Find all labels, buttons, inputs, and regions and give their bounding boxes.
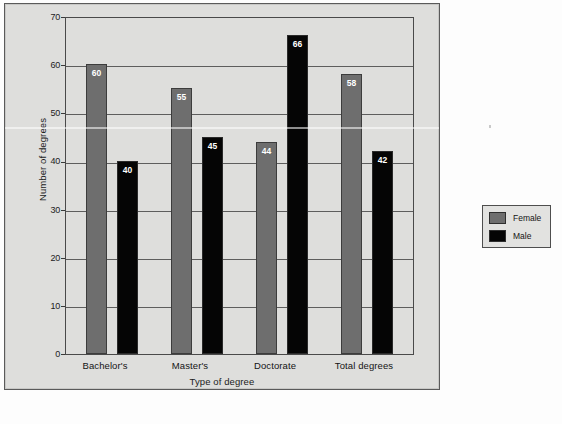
- bar-value-label: 66: [288, 40, 307, 49]
- legend-label-male: Male: [513, 231, 531, 241]
- bar-bachelors-male[interactable]: 40: [117, 161, 138, 354]
- scanned-page: Number of degrees 70 60 50 40 30 20 10 0: [0, 0, 562, 424]
- y-tick-label-30: 30: [34, 206, 60, 215]
- x-tick-label-total-degrees: Total degrees: [321, 360, 407, 371]
- x-tick-label-bachelors: Bachelor's: [67, 360, 143, 371]
- y-tick-label-20: 20: [34, 254, 60, 263]
- bar-doctorate-male[interactable]: 66: [287, 35, 308, 354]
- y-tick-label-60: 60: [34, 61, 60, 70]
- female-swatch-icon: [489, 212, 506, 224]
- bar-doctorate-female[interactable]: 44: [256, 142, 277, 354]
- y-tick-label-50: 50: [34, 109, 60, 118]
- x-axis-title: Type of degree: [5, 376, 439, 387]
- bar-masters-female[interactable]: 55: [171, 88, 192, 354]
- chart-legend: Female Male: [482, 205, 551, 248]
- bar-value-label: 60: [87, 69, 106, 78]
- y-tick-label-40: 40: [34, 157, 60, 166]
- bar-value-label: 40: [118, 166, 137, 175]
- bar-total-degrees-female[interactable]: 58: [341, 74, 362, 354]
- y-tick-label-70: 70: [34, 13, 60, 22]
- gridline-60: [66, 66, 413, 67]
- bar-value-label: 58: [342, 79, 361, 88]
- scan-artifact-speck: [489, 125, 491, 128]
- legend-item-male[interactable]: Male: [489, 230, 531, 242]
- bar-total-degrees-male[interactable]: 42: [372, 151, 393, 354]
- legend-label-female: Female: [513, 213, 541, 223]
- legend-item-female[interactable]: Female: [489, 212, 541, 224]
- chart-figure-panel: Number of degrees 70 60 50 40 30 20 10 0: [4, 3, 440, 390]
- bar-value-label: 45: [203, 142, 222, 151]
- y-tick-label-10: 10: [34, 302, 60, 311]
- y-tick-label-0: 0: [34, 350, 60, 359]
- male-swatch-icon: [489, 230, 506, 242]
- bar-value-label: 44: [257, 147, 276, 156]
- bar-bachelors-female[interactable]: 60: [86, 64, 107, 354]
- bar-masters-male[interactable]: 45: [202, 137, 223, 354]
- x-tick-label-masters: Master's: [152, 360, 228, 371]
- bar-value-label: 42: [373, 156, 392, 165]
- x-tick-label-doctorate: Doctorate: [237, 360, 313, 371]
- plot-area: 60 40 55 45 44 66 58 4: [65, 17, 414, 355]
- bar-value-label: 55: [172, 93, 191, 102]
